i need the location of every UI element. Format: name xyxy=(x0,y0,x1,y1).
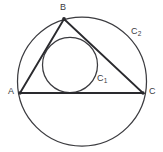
label-circumcircle-c2-main: C xyxy=(131,26,138,36)
label-circumcircle-c2: C2 xyxy=(131,27,141,36)
label-vertex-b: B xyxy=(60,3,66,12)
label-vertex-c: C xyxy=(149,87,156,96)
incircle-c1 xyxy=(43,38,98,93)
vertex-dot-a xyxy=(18,91,21,94)
geometry-diagram: B A C C1 C2 xyxy=(0,0,163,152)
label-incircle-c1-subscript: 1 xyxy=(104,77,108,84)
label-circumcircle-c2-subscript: 2 xyxy=(138,30,142,37)
geometry-canvas xyxy=(0,0,163,152)
label-vertex-a: A xyxy=(8,87,14,96)
label-incircle-c1-main: C xyxy=(97,73,104,83)
vertex-dot-b xyxy=(62,17,66,21)
vertex-dot-c xyxy=(141,91,144,94)
label-incircle-c1: C1 xyxy=(97,74,107,83)
triangle-abc xyxy=(20,19,143,93)
